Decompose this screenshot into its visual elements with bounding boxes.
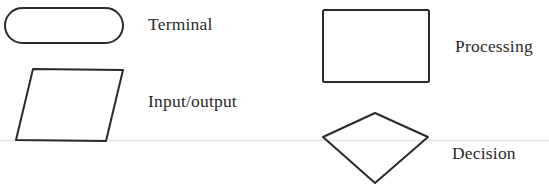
input-output-symbol — [16, 69, 123, 141]
input-output-label: Input/output — [148, 93, 237, 111]
terminal-symbol — [5, 8, 123, 43]
decision-symbol — [323, 113, 428, 183]
terminal-label: Terminal — [148, 16, 213, 34]
decision-label: Decision — [452, 145, 516, 163]
processing-symbol — [323, 10, 429, 82]
flowchart-symbols-legend: Terminal Input/output Processing Decisio… — [0, 0, 549, 187]
processing-label: Processing — [455, 38, 533, 56]
